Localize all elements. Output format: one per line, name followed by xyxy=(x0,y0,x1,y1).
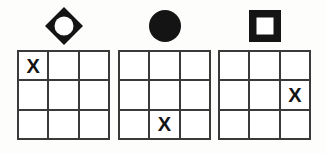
grid-cell-r0c2[interactable] xyxy=(80,52,108,79)
grid-cell-r0c2[interactable] xyxy=(281,52,309,79)
symbol-slot-square xyxy=(217,4,312,48)
grid-cell-r2c2[interactable] xyxy=(80,111,108,138)
grid-cell-r1c1[interactable] xyxy=(49,81,77,108)
grid-cell-r1c2[interactable]: X xyxy=(281,81,309,108)
square-outline-icon xyxy=(245,6,285,46)
grid-cell-r1c0[interactable] xyxy=(120,81,148,108)
circle-filled-icon xyxy=(145,6,185,46)
grid-cell-r0c1[interactable] xyxy=(250,52,278,79)
cell-mark: X xyxy=(26,56,39,76)
tic-tac-toe-grid-diamond: X xyxy=(17,50,110,140)
symbol-slot-diamond xyxy=(16,4,111,48)
puzzle-panel-diamond: X xyxy=(16,0,111,154)
grid-cell-r1c1[interactable] xyxy=(250,81,278,108)
puzzle-panel-square: X xyxy=(217,0,312,154)
diamond-outline-icon xyxy=(44,6,84,46)
grid-cell-r1c2[interactable] xyxy=(181,81,209,108)
grid-cell-r2c0[interactable] xyxy=(19,111,47,138)
grid-cell-r2c0[interactable] xyxy=(120,111,148,138)
grid-cell-r2c0[interactable] xyxy=(220,111,248,138)
grid-cell-r0c0[interactable] xyxy=(220,52,248,79)
symbol-slot-circle xyxy=(117,4,212,48)
puzzle-board: X X xyxy=(0,0,325,154)
grid-cell-r1c0[interactable] xyxy=(220,81,248,108)
grid-cell-r2c2[interactable] xyxy=(181,111,209,138)
tic-tac-toe-grid-circle: X xyxy=(118,50,211,140)
grid-cell-r0c1[interactable] xyxy=(49,52,77,79)
grid-cell-r0c1[interactable] xyxy=(150,52,178,79)
grid-cell-r1c1[interactable] xyxy=(150,81,178,108)
grid-cell-r2c1[interactable] xyxy=(49,111,77,138)
grid-cell-r1c0[interactable] xyxy=(19,81,47,108)
tic-tac-toe-grid-square: X xyxy=(218,50,311,140)
grid-cell-r2c1[interactable]: X xyxy=(150,111,178,138)
grid-cell-r0c0[interactable]: X xyxy=(19,52,47,79)
grid-cell-r2c1[interactable] xyxy=(250,111,278,138)
cell-mark: X xyxy=(158,114,171,134)
grid-cell-r0c2[interactable] xyxy=(181,52,209,79)
grid-cell-r0c0[interactable] xyxy=(120,52,148,79)
cell-mark: X xyxy=(288,85,301,105)
puzzle-panel-circle: X xyxy=(117,0,212,154)
grid-cell-r2c2[interactable] xyxy=(281,111,309,138)
grid-cell-r1c2[interactable] xyxy=(80,81,108,108)
